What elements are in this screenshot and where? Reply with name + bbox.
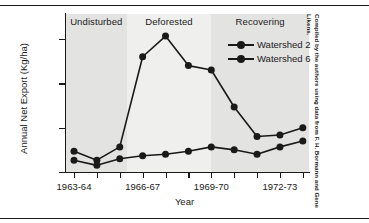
x-tick-label: 1969-70	[194, 181, 229, 192]
zone-label-undisturbed: Undisturbed	[70, 16, 122, 27]
data-point	[276, 132, 283, 139]
data-point	[231, 103, 238, 110]
data-point	[116, 143, 123, 150]
x-tick	[120, 173, 121, 178]
credit-note: Compiled by the authors using data from …	[287, 14, 321, 210]
chart-figure: UndisturbedDeforestedRecovering 0306090 …	[0, 0, 369, 223]
data-point	[162, 151, 169, 158]
y-axis-title: Annual Net Export (Kg/ha)	[18, 24, 29, 174]
bottom-rule	[0, 218, 369, 219]
data-point	[208, 143, 215, 150]
legend-marker-icon	[228, 39, 254, 50]
data-point	[254, 133, 261, 140]
y-tick	[59, 128, 65, 129]
data-point	[71, 148, 78, 155]
data-point	[139, 152, 146, 159]
y-axis-line	[65, 13, 66, 173]
data-point	[71, 157, 78, 164]
credit-line-1: Compiled by the authors using data from …	[314, 14, 321, 191]
y-tick	[59, 83, 65, 84]
x-tick	[234, 173, 235, 178]
x-tick	[97, 173, 98, 178]
data-point	[276, 143, 283, 150]
data-point	[208, 67, 215, 74]
x-tick-label: 1966-67	[125, 181, 160, 192]
x-tick	[143, 173, 144, 178]
legend-marker-icon	[228, 53, 254, 64]
x-tick	[280, 173, 281, 178]
x-tick	[188, 173, 189, 178]
top-rule	[0, 5, 369, 6]
data-point	[254, 151, 261, 158]
x-tick	[166, 173, 167, 178]
x-tick	[211, 173, 212, 178]
data-point	[93, 162, 100, 169]
data-point	[162, 33, 169, 40]
y-tick	[59, 39, 65, 40]
x-tick	[74, 173, 75, 178]
y-tick	[59, 172, 65, 173]
zone-label-recovering: Recovering	[236, 16, 285, 27]
x-tick	[257, 173, 258, 178]
data-point	[139, 53, 146, 60]
data-point	[185, 62, 192, 69]
x-tick-label: 1963-64	[57, 181, 92, 192]
data-point	[116, 155, 123, 162]
zone-label-deforested: Deforested	[145, 16, 192, 27]
data-point	[185, 148, 192, 155]
data-point	[231, 146, 238, 153]
